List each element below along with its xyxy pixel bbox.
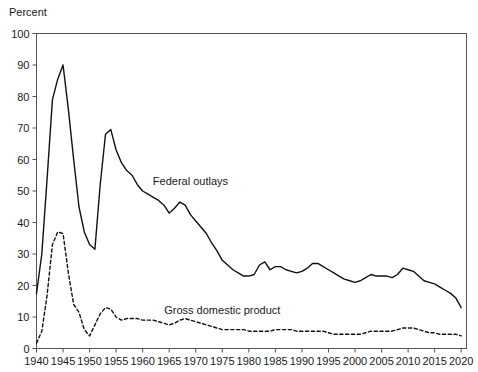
- y-tick-label: 40: [17, 217, 29, 229]
- x-tick-label: 1975: [210, 355, 234, 367]
- x-tick-label: 1980: [237, 355, 261, 367]
- x-tick-label: 1995: [316, 355, 340, 367]
- y-tick-label: 100: [11, 28, 29, 40]
- y-tick-label: 70: [17, 122, 29, 134]
- x-axis-ticks: 1940194519501955196019651970197519801985…: [24, 349, 473, 367]
- x-tick-label: 1970: [184, 355, 208, 367]
- series-annotation-1: Federal outlays: [153, 175, 229, 187]
- x-tick-label: 1945: [51, 355, 75, 367]
- y-tick-label: 90: [17, 59, 29, 71]
- x-tick-label: 2005: [369, 355, 393, 367]
- x-tick-label: 1950: [77, 355, 101, 367]
- line-chart-plot: 0102030405060708090100 19401945195019551…: [0, 0, 478, 372]
- x-tick-label: 1965: [157, 355, 181, 367]
- x-tick-label: 2020: [449, 355, 473, 367]
- series-annotation-2: Gross domestic product: [164, 304, 280, 316]
- y-tick-label: 0: [23, 343, 29, 355]
- x-tick-label: 1940: [24, 355, 48, 367]
- x-tick-label: 2010: [396, 355, 420, 367]
- y-axis-ticks: 0102030405060708090100: [11, 28, 36, 355]
- x-tick-label: 2015: [422, 355, 446, 367]
- y-tick-label: 20: [17, 280, 29, 292]
- x-tick-label: 1985: [263, 355, 287, 367]
- x-tick-label: 1955: [104, 355, 128, 367]
- series-line-2: [37, 232, 462, 343]
- x-tick-label: 1990: [290, 355, 314, 367]
- chart-container: Percent 0102030405060708090100 194019451…: [0, 0, 478, 372]
- data-series-lines: [37, 65, 462, 343]
- plot-frame: [37, 34, 467, 349]
- y-tick-label: 60: [17, 154, 29, 166]
- y-tick-label: 50: [17, 185, 29, 197]
- y-tick-label: 10: [17, 311, 29, 323]
- y-tick-label: 30: [17, 248, 29, 260]
- y-tick-label: 80: [17, 91, 29, 103]
- series-line-1: [37, 65, 462, 308]
- x-tick-label: 2000: [343, 355, 367, 367]
- series-annotations: Federal outlaysGross domestic product: [153, 175, 281, 316]
- x-tick-label: 1960: [130, 355, 154, 367]
